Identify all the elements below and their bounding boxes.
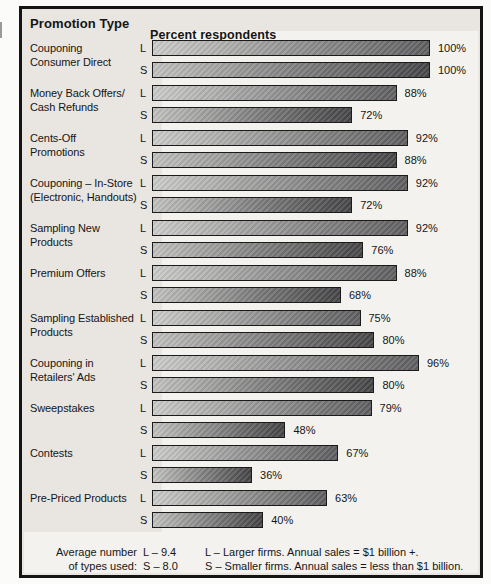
bar-s — [152, 287, 341, 303]
category-label: Cents-OffPromotions — [30, 131, 140, 159]
series-letter-l: L — [140, 267, 152, 279]
bar-l — [152, 400, 372, 416]
value-label-s: 72% — [360, 199, 382, 211]
value-label-s: 76% — [371, 244, 393, 256]
series-letter-s: S — [140, 109, 152, 121]
series-letter-l: L — [140, 222, 152, 234]
series-letter-l: L — [140, 42, 152, 54]
category-label: Premium Offers — [30, 266, 140, 280]
bar-row-s: S36% — [140, 467, 476, 483]
value-label-l: 88% — [405, 87, 427, 99]
average-types-value-l: L – 9.4 — [143, 546, 176, 558]
series-letter-l: L — [140, 312, 152, 324]
category-group: ContestsL67%S36% — [30, 445, 476, 483]
value-label-l: 92% — [416, 177, 438, 189]
bar-row-s: S72% — [140, 107, 476, 123]
series-letter-l: L — [140, 132, 152, 144]
bar-l — [152, 130, 408, 146]
average-types-label: Average number of types used: — [42, 545, 137, 573]
bar-pair: L67%S36% — [140, 445, 476, 483]
series-letter-s: S — [140, 424, 152, 436]
bar-s — [152, 242, 363, 258]
bar-pair: L100%S100% — [140, 40, 476, 78]
bar-l — [152, 85, 397, 101]
category-group: CouponingConsumer DirectL100%S100% — [30, 40, 476, 78]
series-letter-l: L — [140, 402, 152, 414]
average-types-label-line1: Average number — [56, 546, 137, 558]
value-label-l: 79% — [380, 402, 402, 414]
series-letter-s: S — [140, 334, 152, 346]
bar-s — [152, 62, 430, 78]
bar-row-l: L79% — [140, 400, 476, 416]
bar-l — [152, 265, 397, 281]
series-letter-s: S — [140, 199, 152, 211]
bar-s — [152, 197, 352, 213]
bar-l — [152, 175, 408, 191]
bar-row-s: S100% — [140, 62, 476, 78]
series-letter-s: S — [140, 244, 152, 256]
bar-row-l: L88% — [140, 85, 476, 101]
category-group: Couponing inRetailers' AdsL96%S80% — [30, 355, 476, 393]
value-label-l: 67% — [346, 447, 368, 459]
bar-pair: L92%S72% — [140, 175, 476, 213]
bar-row-l: L67% — [140, 445, 476, 461]
bar-row-l: L100% — [140, 40, 476, 56]
bar-row-l: L92% — [140, 220, 476, 236]
category-label: CouponingConsumer Direct — [30, 41, 140, 69]
bar-pair: L75%S80% — [140, 310, 476, 348]
category-group: Money Back Offers/Cash RefundsL88%S72% — [30, 85, 476, 123]
series-letter-s: S — [140, 514, 152, 526]
bar-row-l: L92% — [140, 175, 476, 191]
bar-row-s: S76% — [140, 242, 476, 258]
value-label-l: 92% — [416, 132, 438, 144]
category-group: Sampling NewProductsL92%S76% — [30, 220, 476, 258]
bar-row-l: L96% — [140, 355, 476, 371]
bar-row-s: S80% — [140, 332, 476, 348]
column-header-promotion-type: Promotion Type — [30, 16, 129, 31]
category-label: Couponing – In-Store(Electronic, Handout… — [30, 176, 140, 204]
value-label-s: 36% — [260, 469, 282, 481]
series-letter-s: S — [140, 469, 152, 481]
legend-smaller-firms: S – Smaller firms. Annual sales = less t… — [205, 560, 463, 572]
value-label-s: 68% — [349, 289, 371, 301]
bar-row-s: S88% — [140, 152, 476, 168]
bar-row-l: L92% — [140, 130, 476, 146]
bar-pair: L63%S40% — [140, 490, 476, 528]
value-label-s: 72% — [360, 109, 382, 121]
category-label: Sampling NewProducts — [30, 221, 140, 249]
bar-l — [152, 220, 408, 236]
bar-row-s: S48% — [140, 422, 476, 438]
bar-pair: L96%S80% — [140, 355, 476, 393]
category-label: Sweepstakes — [30, 401, 140, 415]
bar-pair: L79%S48% — [140, 400, 476, 438]
average-types-label-line2: of types used: — [69, 560, 138, 572]
value-label-l: 96% — [427, 357, 449, 369]
bar-s — [152, 512, 263, 528]
value-label-s: 80% — [382, 379, 404, 391]
bar-groups: CouponingConsumer DirectL100%S100%Money … — [30, 40, 476, 535]
bar-s — [152, 467, 252, 483]
page-edge-mark — [0, 22, 2, 38]
bar-l — [152, 40, 430, 56]
bar-row-l: L63% — [140, 490, 476, 506]
average-types-values: L – 9.4 S – 8.0 — [143, 545, 178, 573]
value-label-s: 80% — [382, 334, 404, 346]
category-group: Premium OffersL88%S68% — [30, 265, 476, 303]
value-label-s: 40% — [271, 514, 293, 526]
value-label-s: 88% — [405, 154, 427, 166]
bar-row-s: S72% — [140, 197, 476, 213]
bar-s — [152, 152, 397, 168]
bar-s — [152, 107, 352, 123]
value-label-l: 88% — [405, 267, 427, 279]
bar-l — [152, 310, 361, 326]
series-letter-s: S — [140, 64, 152, 76]
bar-row-s: S68% — [140, 287, 476, 303]
category-group: SweepstakesL79%S48% — [30, 400, 476, 438]
bar-s — [152, 422, 285, 438]
category-label: Pre-Priced Products — [30, 491, 140, 505]
series-legend: L – Larger firms. Annual sales = $1 bill… — [205, 545, 463, 573]
category-label: Money Back Offers/Cash Refunds — [30, 86, 140, 114]
series-letter-l: L — [140, 177, 152, 189]
bar-row-s: S80% — [140, 377, 476, 393]
bar-pair: L92%S88% — [140, 130, 476, 168]
